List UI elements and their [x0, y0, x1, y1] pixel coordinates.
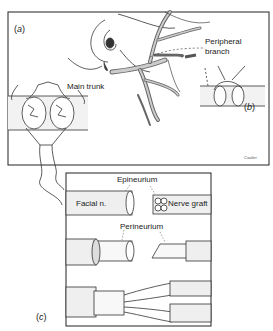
label-perineurium: Perineurium — [120, 222, 163, 231]
row2-nerves — [66, 239, 211, 265]
peripheral-branch-repair — [200, 66, 265, 106]
nerve-repair-illustration — [0, 0, 273, 331]
label-peripheral-line1: Peripheral — [205, 37, 241, 46]
label-nerve-graft: Nerve graft — [168, 199, 208, 208]
label-main-trunk: Main trunk — [67, 82, 104, 91]
artist-signature: Coulter — [244, 155, 257, 160]
panel-a-tag: (a) — [14, 24, 25, 34]
label-peripheral-line2: branch — [205, 47, 229, 56]
label-epineurium: Epineurium — [117, 175, 157, 184]
main-trunk-repair — [8, 82, 88, 145]
facial-nerve-branches — [112, 12, 200, 125]
panel-c-tag: (c) — [36, 312, 47, 322]
label-facial-n: Facial n. — [76, 199, 106, 208]
thin-nerves — [165, 12, 210, 92]
panel-b-tag: (b) — [244, 102, 255, 112]
row3-nerves — [66, 281, 211, 322]
peripheral-branch-gap — [185, 55, 196, 57]
connector-line — [40, 145, 62, 205]
